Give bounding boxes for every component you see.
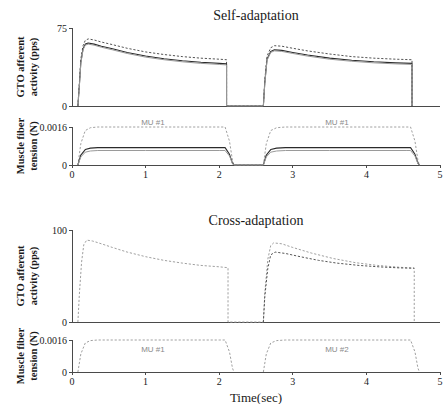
tension-y-tick-label: 0.0016 [40, 122, 68, 133]
gto-y-tick-label: 75 [57, 23, 67, 34]
x-axis-title: Time(sec) [230, 390, 282, 404]
gto-trace [78, 240, 414, 322]
x-tick-label: 4 [364, 169, 369, 180]
x-tick-label: 0 [70, 169, 75, 180]
mu-annotation: MU #1 [325, 118, 349, 127]
gto-y-axis-title: GTO afferentactivity (pps) [15, 36, 39, 98]
mu-annotation: MU #1 [141, 118, 165, 127]
mu-annotation: MU #1 [141, 345, 165, 354]
adaptation-figure: Self-adaptation750GTO afferentactivity (… [0, 0, 448, 404]
x-tick-label: 4 [364, 376, 369, 387]
tension-y-tick-label: 0.0016 [40, 335, 68, 346]
x-tick-label: 5 [438, 376, 443, 387]
panel-cross-adaptation: Cross-adaptation1000GTO afferentactivity… [15, 213, 442, 404]
panel-title: Self-adaptation [213, 8, 299, 23]
x-tick-label: 1 [143, 169, 148, 180]
tension-trace [78, 151, 420, 165]
panel-title: Cross-adaptation [209, 213, 304, 228]
x-tick-label: 1 [143, 376, 148, 387]
tension-y-axis-title: Muscle fibertension (N) [15, 328, 39, 385]
gto-trace [263, 252, 414, 322]
x-tick-label: 3 [290, 376, 295, 387]
gto-trace [78, 43, 412, 106]
gto-y-axis-title: GTO afferentactivity (pps) [15, 245, 39, 307]
tension-y-tick-label: 0 [62, 160, 67, 171]
x-tick-label: 5 [438, 169, 443, 180]
x-tick-label: 2 [217, 376, 222, 387]
gto-trace [78, 44, 412, 106]
tension-y-tick-label: 0 [62, 367, 67, 378]
gto-y-tick-label: 0 [62, 101, 67, 112]
tension-trace [78, 127, 420, 165]
panel-self-adaptation: Self-adaptation750GTO afferentactivity (… [15, 8, 442, 180]
mu-annotation: MU #2 [325, 345, 349, 354]
x-tick-label: 3 [290, 169, 295, 180]
gto-y-tick-label: 100 [52, 225, 67, 236]
gto-trace [78, 39, 412, 106]
x-tick-label: 2 [217, 169, 222, 180]
figure-root: Self-adaptation750GTO afferentactivity (… [0, 0, 448, 404]
x-tick-label: 0 [70, 376, 75, 387]
gto-y-tick-label: 0 [62, 317, 67, 328]
tension-y-axis-title: Muscle fibertension (N) [15, 118, 39, 175]
